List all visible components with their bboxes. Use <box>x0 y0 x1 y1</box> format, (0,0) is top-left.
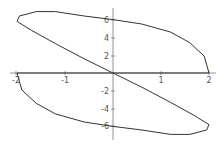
x-tick-label: -1 <box>61 76 69 85</box>
y-tick-label: -4 <box>101 105 109 114</box>
y-tick-label: 6 <box>104 16 109 25</box>
y-tick-label: -2 <box>101 87 109 96</box>
y-tick-label: 2 <box>104 52 109 61</box>
y-tick-label: 4 <box>104 34 109 43</box>
chart: -2-112642-2-4-6 <box>0 0 224 149</box>
x-tick-label: 1 <box>158 76 163 85</box>
y-tick-label: -6 <box>101 122 109 131</box>
x-tick-label: 2 <box>206 76 211 85</box>
plot-area: -2-112642-2-4-6 <box>0 0 224 149</box>
